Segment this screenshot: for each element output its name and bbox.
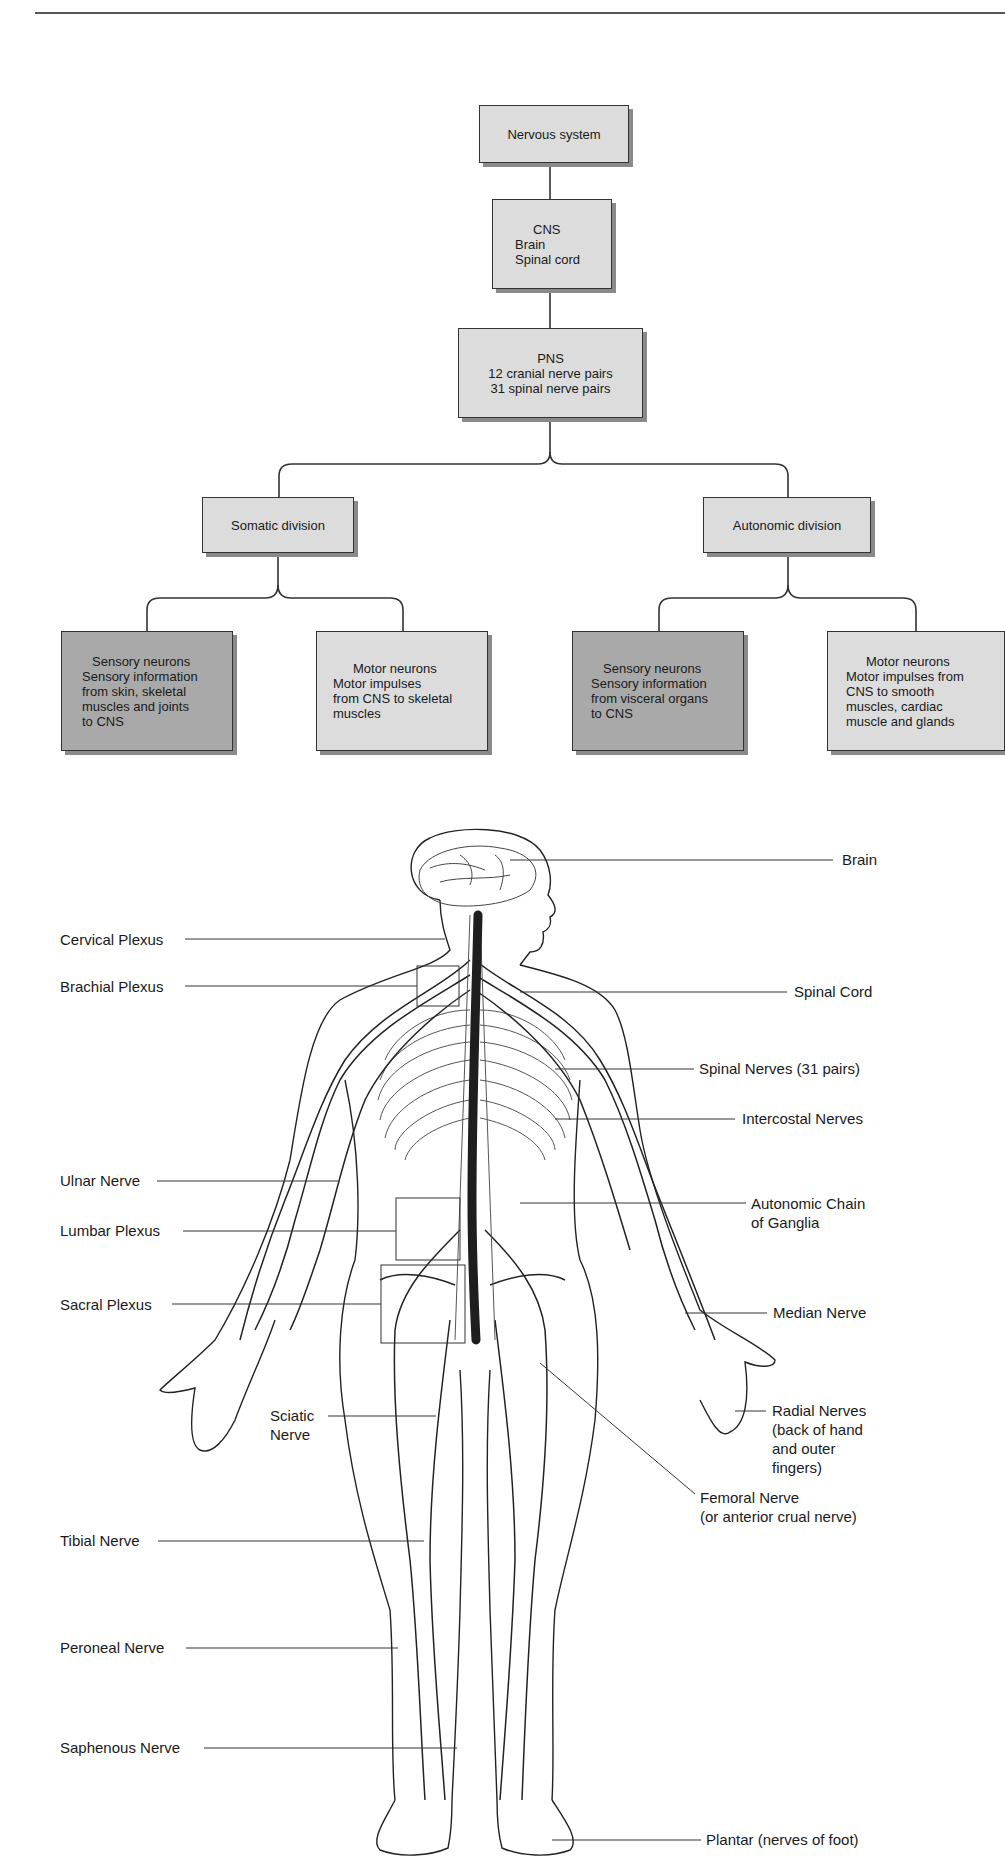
label-radial-nerves: Radial Nerves (back of hand and outer fi… [772,1401,866,1477]
label-ulnar-nerve: Ulnar Nerve [60,1171,140,1190]
label-tibial-nerve: Tibial Nerve [60,1531,139,1550]
label-intercostal-nerves: Intercostal Nerves [742,1109,863,1128]
label-text: Nerve [270,1425,314,1444]
label-text: Spinal Cord [794,983,872,1000]
label-text: Radial Nerves [772,1401,866,1420]
label-cervical-plexus: Cervical Plexus [60,930,163,949]
label-text: Brachial Plexus [60,978,163,995]
label-text: Femoral Nerve [700,1488,857,1507]
label-text: Sciatic [270,1406,314,1425]
label-text: Peroneal Nerve [60,1639,164,1656]
label-text: (back of hand [772,1420,866,1439]
label-text: fingers) [772,1458,866,1477]
label-sciatic-nerve: Sciatic Nerve [270,1406,314,1444]
label-text: Sacral Plexus [60,1296,152,1313]
label-text: and outer [772,1439,866,1458]
label-spinal-cord: Spinal Cord [794,982,872,1001]
label-saphenous-nerve: Saphenous Nerve [60,1738,180,1757]
label-brachial-plexus: Brachial Plexus [60,977,163,996]
label-text: Brain [842,851,877,868]
label-text: Median Nerve [773,1304,866,1321]
label-text: Tibial Nerve [60,1532,139,1549]
label-text: of Ganglia [751,1213,865,1232]
label-plantar: Plantar (nerves of foot) [706,1830,859,1849]
label-text: Plantar (nerves of foot) [706,1831,859,1848]
label-text: Saphenous Nerve [60,1739,180,1756]
label-sacral-plexus: Sacral Plexus [60,1295,152,1314]
label-autonomic-chain: Autonomic Chain of Ganglia [751,1194,865,1232]
label-text: Intercostal Nerves [742,1110,863,1127]
leader-lines [157,860,833,1840]
label-text: Cervical Plexus [60,931,163,948]
label-femoral-nerve: Femoral Nerve (or anterior crual nerve) [700,1488,857,1526]
label-text: Spinal Nerves (31 pairs) [699,1060,860,1077]
plexus-boxes [381,966,465,1343]
label-median-nerve: Median Nerve [773,1303,866,1322]
label-text: Autonomic Chain [751,1194,865,1213]
brain [419,846,536,906]
label-text: Ulnar Nerve [60,1172,140,1189]
label-spinal-nerves: Spinal Nerves (31 pairs) [699,1059,860,1078]
label-text: (or anterior crual nerve) [700,1507,857,1526]
label-brain: Brain [842,850,877,869]
label-lumbar-plexus: Lumbar Plexus [60,1221,160,1240]
label-peroneal-nerve: Peroneal Nerve [60,1638,164,1657]
label-text: Lumbar Plexus [60,1222,160,1239]
spinal-cord [472,915,478,1340]
